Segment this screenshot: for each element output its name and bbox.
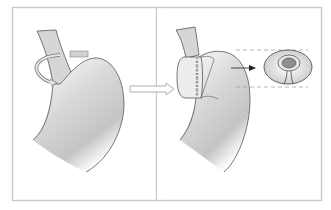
fundus-wrap bbox=[177, 57, 203, 98]
fundoplication-diagram bbox=[0, 0, 331, 210]
cross-section bbox=[264, 50, 312, 84]
panel-before bbox=[33, 30, 124, 172]
stomach-body bbox=[33, 58, 124, 172]
panel-after bbox=[176, 27, 250, 172]
esophagus-after bbox=[176, 27, 199, 58]
fundus-strap bbox=[70, 51, 88, 57]
transition-arrow-icon bbox=[130, 83, 174, 95]
esophagus-lumen bbox=[282, 58, 296, 68]
